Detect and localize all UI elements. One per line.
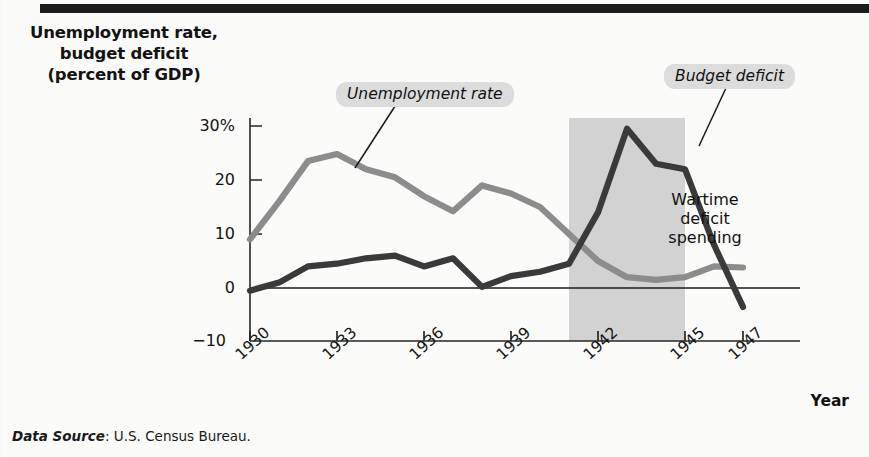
wartime-note-line-1: Wartime (649, 190, 761, 209)
data-source-note: Data Source: U.S. Census Bureau. (12, 428, 251, 444)
callout-unemployment-rate: Unemployment rate (336, 82, 514, 107)
budget-deficit-leader-line (699, 88, 726, 146)
y-tick-label-0: 0 (175, 278, 235, 297)
plot-area: 30% 20 10 0 −10 1930 1933 1936 1939 1942… (0, 0, 869, 457)
figure-root: Unemployment rate, budget deficit (perce… (0, 0, 869, 457)
y-tick-marks (250, 126, 262, 234)
y-tick-label-30: 30% (175, 116, 235, 135)
wartime-note-line-3: spending (649, 228, 761, 247)
x-axis-title: Year (811, 392, 849, 410)
y-tick-label-minus10: −10 (166, 331, 226, 350)
y-tick-label-20: 20 (175, 170, 235, 189)
y-tick-label-10: 10 (175, 224, 235, 243)
wartime-note-line-2: deficit (649, 209, 761, 228)
callout-budget-deficit: Budget deficit (664, 64, 795, 89)
unemployment-leader-line (355, 100, 399, 168)
wartime-deficit-spending-note: Wartime deficit spending (649, 190, 761, 248)
data-source-label: Data Source (12, 428, 105, 444)
data-source-value: : U.S. Census Bureau. (105, 428, 251, 444)
